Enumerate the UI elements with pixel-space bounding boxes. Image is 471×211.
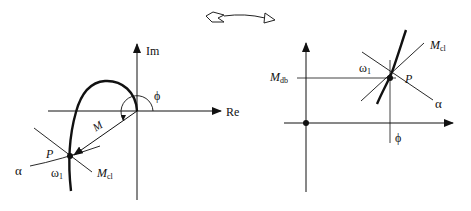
im-axis-label: Im — [146, 44, 160, 58]
phase-label: ϕ — [395, 131, 401, 145]
origin-point — [303, 120, 309, 126]
alpha-label: α — [435, 96, 442, 111]
mcl-label: Mcl — [96, 166, 114, 181]
alpha-curve — [30, 146, 100, 166]
omega1-label: ω1 — [51, 166, 63, 181]
re-axis-label: Re — [226, 105, 239, 119]
point-p-label: P — [45, 147, 54, 161]
nichols-plot: Mdb ϕ P ω1 α Mcl — [269, 30, 453, 192]
mdb-label: Mdb — [269, 70, 288, 85]
mcl-line — [34, 128, 92, 172]
phase-label: ϕ — [154, 89, 160, 103]
alpha-label: α — [15, 163, 22, 178]
point-p — [387, 75, 393, 81]
point-p — [67, 153, 73, 159]
point-p-label: P — [404, 72, 413, 86]
transform-arrow-icon — [206, 12, 275, 23]
mcl-label: Mcl — [429, 38, 447, 53]
nichols-curve — [377, 30, 406, 104]
omega1-label: ω1 — [359, 61, 371, 76]
diagram-canvas: Im Re ϕ M P ω1 α Mcl Mdb ϕ — [0, 0, 471, 211]
magnitude-label: M — [89, 118, 105, 134]
magnitude-vector — [74, 111, 137, 155]
nyquist-plot: Im Re ϕ M P ω1 α Mcl — [15, 44, 239, 200]
